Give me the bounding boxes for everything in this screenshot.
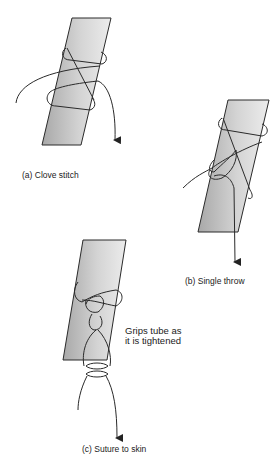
panel-b-single-throw	[183, 100, 269, 262]
caption-b: (b) Single throw	[185, 276, 245, 286]
tube-c	[63, 240, 126, 360]
suture-diagram	[0, 0, 279, 464]
tube-a	[42, 18, 111, 145]
annotation-grips-tube: Grips tube as it is tightened	[125, 326, 182, 346]
panel-c-suture-to-skin	[63, 240, 126, 438]
caption-a: (a) Clove stitch	[22, 170, 79, 180]
caption-c: (c) Suture to skin	[82, 444, 146, 454]
annotation-line-2: it is tightened	[125, 336, 182, 346]
panel-a-clove-stitch	[16, 18, 115, 145]
